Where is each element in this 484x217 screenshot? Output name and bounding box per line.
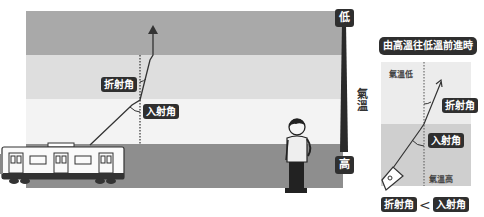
inset-ray-diagram — [0, 0, 484, 217]
comparison-incidence-tag: 入射角 — [433, 197, 469, 212]
less-than-symbol: < — [419, 198, 431, 212]
megaphone-icon — [382, 167, 403, 190]
inset-incidence-angle-tag: 入射角 — [428, 133, 464, 148]
inset-refraction-angle-tag: 折射角 — [442, 98, 478, 113]
comparison-refraction-tag: 折射角 — [381, 197, 417, 212]
angle-comparison: 折射角 < 入射角 — [381, 197, 469, 212]
